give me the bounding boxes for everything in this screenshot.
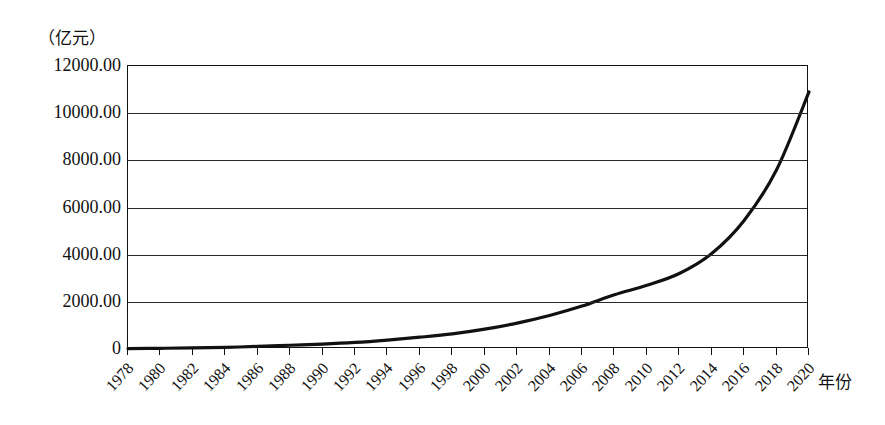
- x-axis-tick-label: 1980: [136, 360, 170, 394]
- x-axis-tick-label: 2014: [687, 360, 721, 394]
- x-axis-tick-label: 2004: [525, 360, 559, 394]
- x-axis-tick-label: 1998: [427, 360, 461, 394]
- x-axis-tick-label: 2008: [590, 360, 624, 394]
- x-axis-tick-label: 2000: [460, 360, 494, 394]
- x-axis-tick-label: 1984: [200, 360, 234, 394]
- x-axis-tick-label: 1982: [168, 360, 202, 394]
- x-axis-tick-label: 1996: [395, 360, 429, 394]
- x-axis-tick-label: 1986: [233, 360, 267, 394]
- line-chart: （亿元） 02000.004000.006000.008000.0010000.…: [0, 0, 885, 425]
- x-axis-title: 年份: [818, 368, 852, 393]
- x-axis-tick-label: 2012: [654, 360, 688, 394]
- x-axis-tick-labels: 1978198019821984198619881990199219941996…: [0, 0, 885, 425]
- x-axis-tick-label: 1994: [363, 360, 397, 394]
- x-axis-tick-label: 2020: [784, 360, 818, 394]
- x-axis-tick-label: 1990: [298, 360, 332, 394]
- x-axis-tick-label: 2006: [557, 360, 591, 394]
- x-axis-tick-label: 1988: [265, 360, 299, 394]
- x-axis-tick-label: 1978: [103, 360, 137, 394]
- x-axis-tick-label: 2018: [752, 360, 786, 394]
- x-axis-tick-label: 2002: [492, 360, 526, 394]
- x-axis-tick-label: 2010: [622, 360, 656, 394]
- x-axis-tick-label: 2016: [719, 360, 753, 394]
- x-axis-tick-label: 1992: [330, 360, 364, 394]
